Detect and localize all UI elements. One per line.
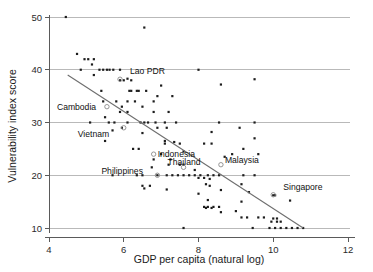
data-point xyxy=(194,174,196,176)
data-point xyxy=(156,127,158,129)
gridlines xyxy=(49,17,350,228)
data-point xyxy=(141,132,143,134)
data-point xyxy=(166,174,168,176)
data-point xyxy=(205,207,207,209)
data-point xyxy=(197,69,199,71)
country-annotations: Lao PDRCambodiaVietnamIndonesiaPhilippin… xyxy=(57,66,323,197)
data-point xyxy=(242,174,244,176)
data-point xyxy=(207,174,209,176)
data-point xyxy=(274,227,276,229)
data-point xyxy=(119,69,121,71)
data-point xyxy=(145,90,147,92)
data-point xyxy=(143,26,145,28)
data-point xyxy=(220,211,222,213)
data-point xyxy=(102,69,104,71)
x-tick-label-6: 6 xyxy=(121,244,126,255)
data-point xyxy=(164,121,166,123)
country-marker-malaysia xyxy=(219,163,223,167)
scatter-plot: Lao PDRCambodiaVietnamIndonesiaPhilippin… xyxy=(0,0,373,272)
data-point xyxy=(132,148,134,150)
data-point xyxy=(276,217,278,219)
data-point xyxy=(147,121,149,123)
data-point xyxy=(242,148,244,150)
country-label-thailand: Thailand xyxy=(168,157,201,167)
data-point xyxy=(87,58,89,60)
data-point xyxy=(113,121,115,123)
data-point xyxy=(143,187,145,189)
data-point xyxy=(138,90,140,92)
data-point xyxy=(171,95,173,97)
data-point xyxy=(106,69,108,71)
data-point xyxy=(257,216,259,218)
data-point xyxy=(253,137,255,139)
data-point xyxy=(130,90,132,92)
data-point xyxy=(210,131,212,133)
axis-lines xyxy=(45,15,355,237)
data-point xyxy=(166,127,168,129)
data-point xyxy=(291,227,293,229)
data-point xyxy=(197,193,199,195)
data-point xyxy=(166,188,168,190)
data-point xyxy=(212,174,214,176)
chart-figure: Lao PDRCambodiaVietnamIndonesiaPhilippin… xyxy=(0,0,373,272)
data-point xyxy=(253,121,255,123)
data-point xyxy=(115,100,117,102)
data-point xyxy=(252,227,254,229)
data-point xyxy=(102,100,104,102)
data-point xyxy=(153,111,155,113)
data-point xyxy=(235,210,237,212)
x-axis-title: GDP per capita (natural log) xyxy=(134,253,265,265)
data-point xyxy=(93,58,95,60)
data-point xyxy=(268,227,270,229)
data-point xyxy=(141,185,143,187)
data-point xyxy=(112,69,114,71)
data-point xyxy=(179,143,181,145)
data-point xyxy=(89,121,91,123)
data-point xyxy=(285,227,287,229)
data-point xyxy=(276,221,278,223)
data-point xyxy=(108,121,110,123)
data-point xyxy=(149,185,151,187)
data-point xyxy=(188,174,190,176)
data-point xyxy=(76,53,78,55)
country-label-malaysia: Malaysia xyxy=(225,155,259,165)
country-marker-cambodia xyxy=(105,104,109,108)
data-point xyxy=(218,121,220,123)
data-point xyxy=(141,106,143,108)
data-point xyxy=(121,106,123,108)
data-point xyxy=(240,183,242,185)
data-point xyxy=(83,58,85,60)
data-point xyxy=(177,174,179,176)
data-point xyxy=(289,199,291,201)
data-point xyxy=(119,111,121,113)
country-label-lao-pdr: Lao PDR xyxy=(130,66,165,76)
data-point xyxy=(246,216,248,218)
data-point xyxy=(175,121,177,123)
data-point xyxy=(203,177,205,179)
data-point xyxy=(126,121,128,123)
country-label-singapore: Singapore xyxy=(283,182,322,192)
data-point xyxy=(171,174,173,176)
data-point xyxy=(240,216,242,218)
data-point xyxy=(65,16,67,18)
country-label-philippines: Philippines xyxy=(101,166,143,176)
data-point xyxy=(168,111,170,113)
data-point xyxy=(123,79,125,81)
data-point xyxy=(91,63,93,65)
data-point xyxy=(280,221,282,223)
data-point xyxy=(126,111,128,113)
data-point xyxy=(98,69,100,71)
data-point xyxy=(164,143,166,145)
data-point xyxy=(203,143,205,145)
data-point xyxy=(104,140,106,142)
data-point xyxy=(220,83,222,85)
data-point xyxy=(253,174,255,176)
data-point xyxy=(143,121,145,123)
data-point xyxy=(154,121,156,123)
data-point xyxy=(205,183,207,185)
data-point xyxy=(126,78,128,80)
data-point xyxy=(93,74,95,76)
data-point xyxy=(253,78,255,80)
data-point xyxy=(209,178,211,180)
x-tick-label-4: 4 xyxy=(46,244,51,255)
